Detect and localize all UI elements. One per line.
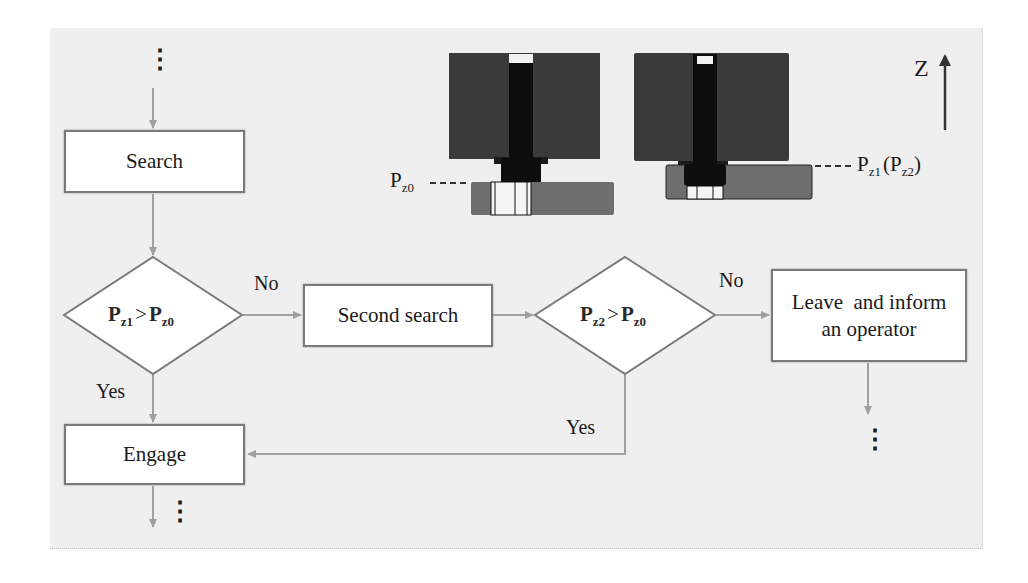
mechanism-illustration-before	[449, 53, 614, 215]
second-search-node-label: Second search	[338, 302, 459, 328]
second-search-node: Second search	[303, 284, 493, 347]
pz0-label: Pz0	[390, 168, 414, 196]
continuation-top-dots: ⋮	[147, 44, 173, 75]
decision2-label: Pz2>Pz0	[580, 302, 646, 330]
mechanism-illustration-after	[634, 53, 812, 199]
leave-node-label-line1: Leave and inform	[792, 289, 947, 315]
leave-and-inform-node: Leave and inform an operator	[771, 269, 967, 362]
search-node-label: Search	[126, 148, 183, 174]
z-axis-label: Z	[914, 55, 929, 82]
decision1-label: Pz1>Pz0	[108, 302, 174, 330]
decision1-yes-label: Yes	[96, 380, 125, 403]
search-node: Search	[64, 130, 245, 193]
engage-node: Engage	[64, 424, 245, 485]
continuation-engage-dots: ⋮	[167, 496, 193, 527]
decision2-no-label: No	[719, 269, 743, 292]
decision2-yes-label: Yes	[566, 416, 595, 439]
arrow-decision2-yes	[248, 375, 625, 454]
decision1-no-label: No	[254, 272, 278, 295]
continuation-leave-dots: ⋮	[862, 424, 888, 455]
pz1-pz2-label: Pz1(Pz2)	[857, 152, 921, 180]
engage-node-label: Engage	[123, 441, 186, 467]
leave-node-label-line2: an operator	[821, 316, 916, 342]
